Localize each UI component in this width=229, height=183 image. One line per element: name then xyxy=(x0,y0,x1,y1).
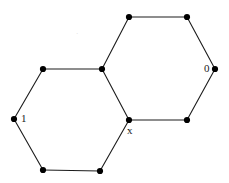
graph-vertex xyxy=(11,116,17,122)
graph-edge xyxy=(187,17,215,69)
graph-edge xyxy=(100,120,129,171)
graph-edge xyxy=(102,69,129,120)
edge-layer xyxy=(14,17,215,171)
graph-edge xyxy=(43,170,100,171)
graph-vertex xyxy=(99,66,105,72)
vertex-label-x: x xyxy=(127,125,133,136)
graph-edge xyxy=(14,119,43,170)
graph-edge xyxy=(14,69,43,119)
graph-vertex xyxy=(40,66,46,72)
vertex-layer xyxy=(11,14,218,174)
graph-edge xyxy=(102,17,129,69)
graph-vertex xyxy=(126,14,132,20)
graph-edge xyxy=(187,69,215,120)
graph-vertex xyxy=(126,117,132,123)
graph-vertex xyxy=(97,168,103,174)
figure-canvas: 1 0 x · xyxy=(0,0,229,183)
graph-vertex xyxy=(212,66,218,72)
vertex-label-0: 0 xyxy=(204,63,210,74)
graph-vertex xyxy=(184,117,190,123)
graph-vertex xyxy=(184,14,190,20)
faint-mark: · xyxy=(76,31,78,38)
vertex-label-1: 1 xyxy=(21,113,27,124)
hexagon-graph xyxy=(0,0,229,183)
graph-vertex xyxy=(40,167,46,173)
